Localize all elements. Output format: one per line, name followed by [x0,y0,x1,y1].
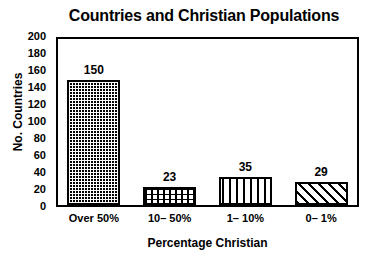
bar [143,187,196,205]
y-tick-label: 200 [28,30,46,43]
y-axis-title: No. Countries [9,27,27,197]
bar-value-label: 29 [291,165,351,179]
y-tick-label: 100 [28,115,46,128]
bar [295,182,348,205]
y-tick-label: 120 [28,98,46,111]
x-axis-title: Percentage Christian [56,236,359,250]
bar-value-label: 23 [140,170,200,184]
chart-title: Countries and Christian Populations [0,6,382,26]
y-tick-label: 60 [34,149,46,162]
x-tick-label: 0– 1% [271,211,371,225]
bar [219,177,272,205]
y-tick-label: 180 [28,47,46,60]
y-tick-label: 20 [34,183,46,196]
y-tick-label: 160 [28,64,46,77]
y-tick-label: 140 [28,81,46,94]
bar-value-label: 35 [215,160,275,174]
bar-chart: Countries and Christian Populations No. … [0,0,382,264]
bar [67,80,120,206]
y-tick-label: 80 [34,132,46,145]
bar-value-label: 150 [64,63,124,77]
y-tick-label: 40 [34,166,46,179]
